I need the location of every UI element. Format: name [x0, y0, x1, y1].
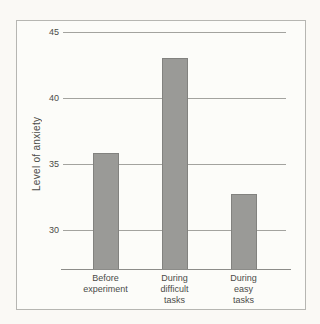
x-tick-label-3: During easy tasks — [207, 273, 281, 306]
chart-frame: Level of anxiety 45403530Before experime… — [16, 20, 306, 310]
x-tick-label-1: Before experiment — [69, 273, 143, 295]
plot-area: 45403530Before experimentDuring difficul… — [17, 21, 305, 309]
y-tick-label-30: 30 — [31, 225, 59, 235]
bar-2 — [162, 58, 188, 269]
scanned-textbook-page: { "chart_data": { "type": "bar", "title"… — [0, 0, 320, 324]
y-tick-label-40: 40 — [31, 93, 59, 103]
bar-3 — [231, 194, 257, 269]
gridline-45 — [63, 32, 286, 33]
bar-1 — [93, 153, 119, 269]
x-axis-line — [61, 269, 291, 270]
y-tick-label-45: 45 — [31, 27, 59, 37]
x-tick-label-2: During difficult tasks — [138, 273, 212, 306]
y-tick-label-35: 35 — [31, 159, 59, 169]
